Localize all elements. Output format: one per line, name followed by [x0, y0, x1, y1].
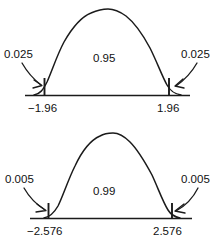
bottom-normal-curve: [44, 133, 180, 218]
bottom-left-leader-line: [24, 188, 45, 210]
top-right-tick-label: 1.96: [157, 102, 179, 114]
bottom-right-tick-label: 2.576: [153, 225, 182, 237]
top-right-tail-label: 0.025: [181, 48, 210, 60]
bottom-left-tail-label: 0.005: [5, 173, 34, 185]
top-chart: 0.025 0.95 0.025 −1.96 1.96: [4, 9, 210, 114]
top-left-arrowhead-icon: [33, 80, 42, 88]
top-left-tick-label: −1.96: [28, 102, 57, 114]
top-center-area-label: 0.95: [93, 52, 115, 64]
top-left-leader-line: [22, 63, 41, 85]
bottom-center-area-label: 0.99: [93, 185, 115, 197]
bottom-right-tail-label: 0.005: [181, 173, 210, 185]
bottom-chart: 0.005 0.99 0.005 −2.576 2.576: [5, 133, 210, 237]
top-left-tail-label: 0.025: [4, 48, 33, 60]
bottom-left-tick-label: −2.576: [27, 225, 63, 237]
normal-distribution-figure: 0.025 0.95 0.025 −1.96 1.96 0.005 0.99: [0, 0, 220, 249]
